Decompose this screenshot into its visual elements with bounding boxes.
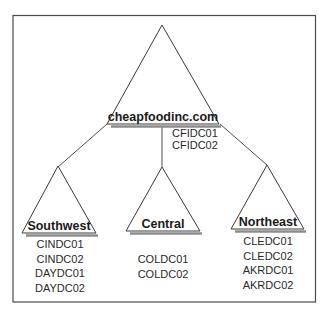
child-domain-southwest: Southwest CINDC01 CINDC02 DAYDC01 DAYDC0… bbox=[22, 166, 98, 294]
child-domain-central: Central COLDC01 COLDC02 bbox=[126, 167, 202, 280]
southwest-dc-item: CINDC01 bbox=[36, 238, 83, 250]
root-domain-node: cheapfoodinc.com CFIDC01 CFIDC02 bbox=[107, 25, 221, 151]
northeast-label: Northeast bbox=[239, 215, 298, 229]
child-domain-northeast: Northeast CLEDC01 CLEDC02 AKRDC01 AKRDC0… bbox=[231, 165, 306, 291]
northeast-dc-item: AKRDC02 bbox=[243, 279, 294, 291]
southwest-dc-item: CINDC02 bbox=[36, 253, 83, 265]
domain-tree-diagram: cheapfoodinc.com CFIDC01 CFIDC02 Southwe… bbox=[0, 0, 329, 313]
southwest-label: Southwest bbox=[27, 219, 91, 233]
edge-root-southwest bbox=[58, 124, 107, 167]
root-dc-item: CFIDC01 bbox=[172, 127, 218, 139]
northeast-dc-item: CLEDC02 bbox=[243, 250, 293, 262]
root-domain-label: cheapfoodinc.com bbox=[108, 110, 218, 124]
root-dc-item: CFIDC02 bbox=[172, 139, 218, 151]
central-dc-item: COLDC01 bbox=[138, 253, 189, 265]
central-label: Central bbox=[141, 217, 184, 231]
edge-root-northeast bbox=[220, 124, 267, 165]
central-dc-item: COLDC02 bbox=[138, 268, 189, 280]
northeast-dc-item: AKRDC01 bbox=[243, 264, 294, 276]
southwest-dc-item: DAYDC01 bbox=[35, 267, 85, 279]
southwest-dc-item: DAYDC02 bbox=[35, 282, 85, 294]
northeast-dc-item: CLEDC01 bbox=[243, 235, 293, 247]
